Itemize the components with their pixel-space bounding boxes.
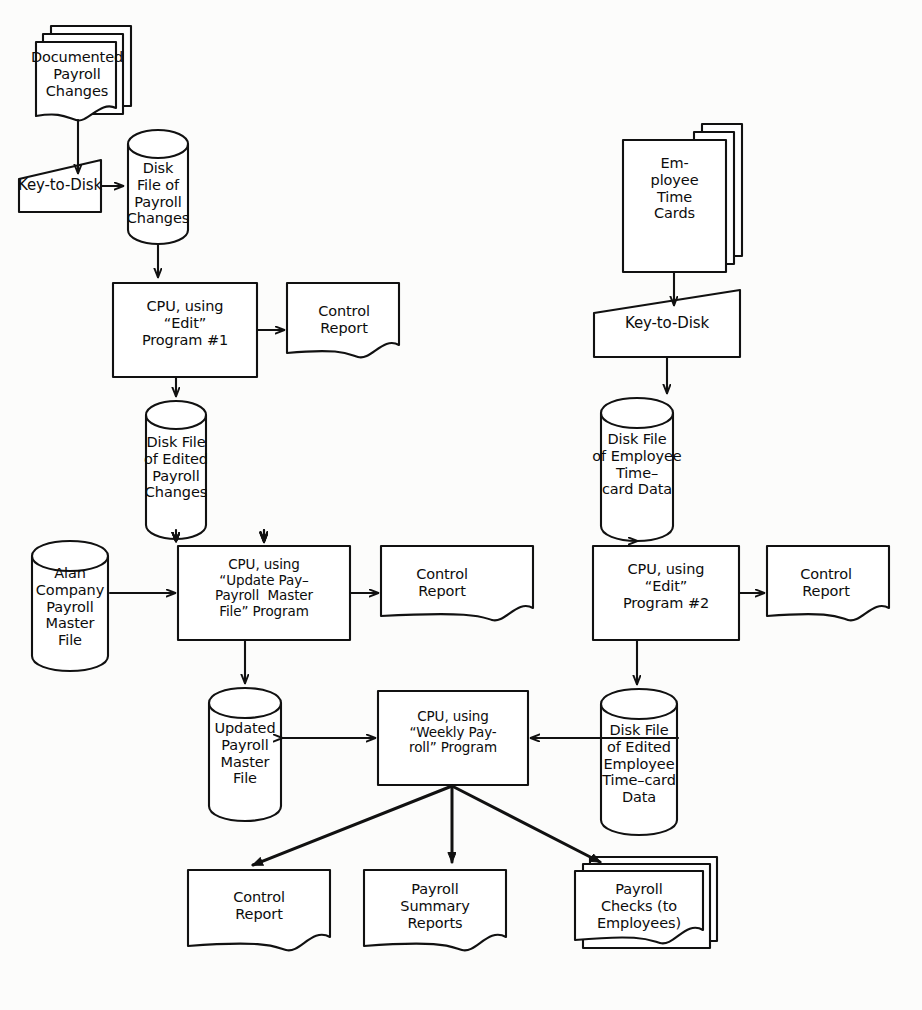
label-key-to-disk-2: Key-to-Disk <box>594 315 740 332</box>
label-key-to-disk-1: Key-to-Disk <box>14 177 106 194</box>
label-alan-company-payroll-master-file: Alan Company Payroll Master File <box>20 565 120 649</box>
label-documented-payroll-changes: Documented Payroll Changes <box>24 49 130 99</box>
label-disk-file-edited-employee-timecard-data: Disk File of Edited Employee Time–card D… <box>577 722 701 806</box>
flowchart-canvas: Documented Payroll Changes Key-to-Disk D… <box>0 0 922 1010</box>
label-control-report-3: Control Report <box>390 566 494 600</box>
label-control-report-1: Control Report <box>292 303 396 337</box>
label-cpu-edit-1: CPU, using “Edit” Program #1 <box>113 298 257 348</box>
output-arrows <box>253 786 600 865</box>
label-cpu-weekly-payroll: CPU, using “Weekly Pay- roll” Program <box>378 709 528 756</box>
flowchart-shapes <box>0 0 922 1010</box>
label-cpu-update-pay: CPU, using “Update Pay– Payroll Master F… <box>178 557 350 620</box>
label-payroll-summary-reports: Payroll Summary Reports <box>383 881 487 931</box>
label-updated-payroll-master-file: Updated Payroll Master File <box>202 720 288 787</box>
label-disk-file-employee-timecard-data: Disk File of Employee Time– card Data <box>572 431 702 498</box>
label-disk-file-payroll-changes: Disk File of Payroll Changes <box>120 160 196 227</box>
label-payroll-checks: Payroll Checks (to Employees) <box>581 881 697 931</box>
label-cpu-edit-2: CPU, using “Edit” Program #2 <box>593 561 739 611</box>
label-control-report-2: Control Report <box>774 566 878 600</box>
label-disk-file-edited-payroll-changes: Disk File of Edited Payroll Changes <box>124 434 228 501</box>
label-control-report-4: Control Report <box>207 889 311 923</box>
label-employee-time-cards: Em- ployee Time Cards <box>623 155 726 222</box>
